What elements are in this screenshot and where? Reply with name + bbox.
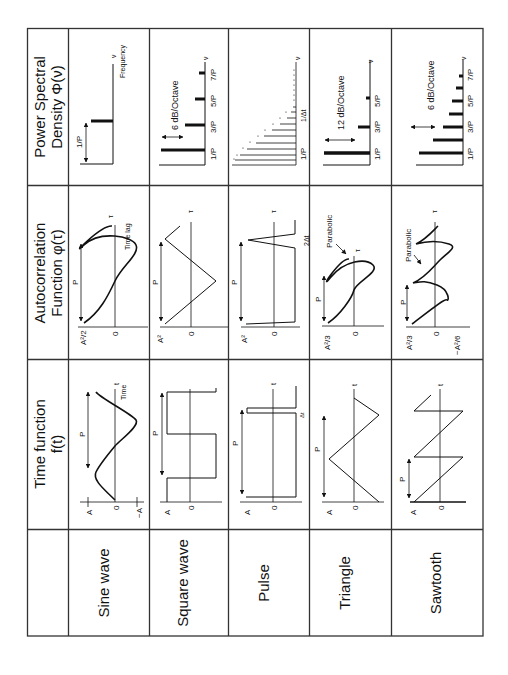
svg-text:t: t [351, 384, 358, 386]
autocorr-square-plot [160, 222, 228, 327]
svg-text:3/P: 3/P [373, 121, 382, 133]
svg-text:−A²/6: −A²/6 [453, 335, 462, 355]
svg-text:Time lag: Time lag [124, 223, 132, 250]
psd-square-db: 6 dB/Octave [170, 80, 180, 130]
svg-text:1/P: 1/P [466, 148, 475, 160]
time-pulse-plot [240, 386, 302, 502]
psd-sine-nu: ν [110, 54, 117, 58]
svg-text:1/P: 1/P [373, 148, 382, 160]
svg-text:0: 0 [437, 505, 446, 510]
svg-text:P: P [314, 297, 323, 302]
psd-pulse-dots [233, 69, 294, 159]
svg-text:A²/3: A²/3 [405, 335, 414, 350]
psd-square-plot [159, 62, 205, 165]
svg-text:5/P: 5/P [373, 95, 382, 107]
svg-text:τ: τ [107, 215, 114, 218]
svg-text:0: 0 [432, 331, 441, 336]
autocorr-sawtooth-parabolic: Parabolic [404, 229, 413, 262]
psd-sine-1p: 1/P [75, 136, 84, 148]
svg-text:0: 0 [270, 331, 279, 336]
svg-text:P: P [151, 431, 160, 436]
svg-text:P: P [399, 300, 408, 305]
svg-text:A: A [163, 509, 172, 515]
svg-text:0: 0 [270, 505, 279, 510]
svg-text:3/P: 3/P [466, 121, 475, 133]
svg-text:0: 0 [187, 505, 196, 510]
svg-text:P: P [231, 441, 240, 446]
svg-text:1/P: 1/P [209, 148, 218, 160]
psd-sawtooth-db: 6 dB/Octave [426, 60, 436, 110]
svg-text:t: t [437, 384, 444, 386]
svg-text:1/Δt: 1/Δt [300, 109, 307, 122]
svg-text:P: P [151, 280, 160, 285]
svg-text:2Δt: 2Δt [303, 235, 310, 246]
svg-text:0: 0 [187, 331, 196, 336]
autocorr-sawtooth-plot [406, 222, 470, 327]
psd-triangle-db: 12 dB/Octave [336, 75, 346, 130]
time-sine-plot [80, 389, 144, 507]
svg-text:P: P [230, 280, 239, 285]
psd-sine-frequency: Frequency [119, 44, 127, 78]
svg-text:P: P [71, 280, 80, 285]
autocorr-pulse-plot [241, 220, 300, 327]
svg-text:A: A [409, 509, 418, 515]
svg-text:ν: ν [202, 56, 209, 60]
psd-pulse-plot [232, 62, 296, 165]
svg-text:A²: A² [156, 335, 165, 343]
psd-triangle-plot [323, 60, 370, 165]
time-triangle-plot [322, 389, 384, 502]
svg-text:7/P: 7/P [466, 69, 475, 81]
psd-sawtooth-plot [411, 60, 463, 165]
svg-text:0: 0 [351, 331, 360, 336]
svg-text:P: P [398, 477, 407, 482]
svg-text:1/P: 1/P [299, 148, 308, 160]
svg-text:A²/3: A²/3 [323, 335, 332, 350]
svg-text:t: t [113, 383, 120, 385]
svg-text:P: P [313, 447, 322, 452]
autocorr-sine-plot [78, 225, 148, 327]
svg-text:A: A [243, 509, 252, 515]
svg-text:Time: Time [120, 385, 127, 400]
svg-text:Δt: Δt [299, 412, 305, 418]
svg-text:ν: ν [460, 56, 467, 60]
svg-text:0: 0 [351, 505, 360, 510]
plots: 1/P ν Frequency 6 dB/Octave 1/P 3/P 5/P … [0, 0, 508, 675]
svg-text:τ: τ [270, 210, 277, 213]
svg-text:0: 0 [112, 505, 121, 510]
svg-text:3/P: 3/P [209, 121, 218, 133]
autocorr-triangle-parabolic: Parabolic [325, 215, 334, 248]
svg-text:ν: ν [367, 59, 374, 63]
svg-text:A²/2: A²/2 [79, 330, 88, 345]
svg-text:P: P [78, 432, 87, 437]
svg-text:0: 0 [111, 331, 120, 336]
psd-sine-plot [80, 64, 113, 164]
time-square-plot [160, 388, 222, 502]
svg-text:7/P: 7/P [209, 69, 218, 81]
svg-text:A: A [325, 509, 334, 515]
svg-text:t: t [270, 383, 277, 385]
svg-text:5/P: 5/P [209, 95, 218, 107]
time-sawtooth-plot [409, 389, 466, 502]
waveform-table: Power Spectral Density Φ(ν) Autocorrelat… [0, 0, 508, 675]
autocorr-triangle-plot [322, 244, 384, 326]
svg-text:τ: τ [431, 210, 438, 213]
svg-text:A²: A² [240, 335, 249, 343]
svg-text:−A: −A [135, 507, 144, 518]
svg-text:5/P: 5/P [466, 95, 475, 107]
svg-text:τ: τ [354, 249, 361, 252]
svg-text:τ: τ [187, 210, 194, 213]
svg-text:A: A [85, 509, 94, 515]
svg-text:ν: ν [294, 56, 301, 60]
